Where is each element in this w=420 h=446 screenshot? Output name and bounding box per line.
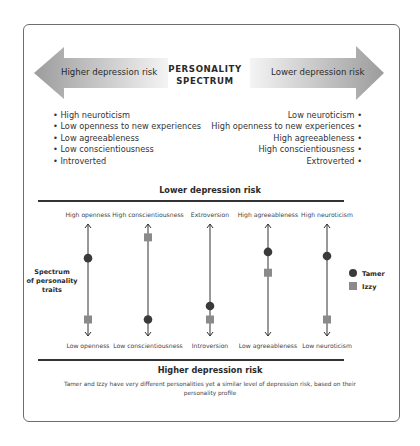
axis-bottom-label: Low openness bbox=[66, 342, 109, 350]
side-label-line: Spectrum bbox=[34, 268, 70, 276]
tamer-marker bbox=[206, 302, 215, 311]
tamer-marker bbox=[144, 315, 153, 324]
side-label-line: of personality bbox=[27, 277, 79, 285]
axis-bottom-label: Low conscientiousness bbox=[113, 342, 183, 349]
side-label-line: traits bbox=[42, 286, 62, 294]
tamer-marker bbox=[84, 254, 93, 263]
legend-tamer-icon bbox=[349, 269, 357, 277]
izzy-marker bbox=[264, 269, 272, 277]
axis-top-label: High neuroticism bbox=[301, 211, 353, 219]
trait-spectrum-chart: High opennessLow opennessHigh conscienti… bbox=[0, 0, 420, 446]
tamer-marker bbox=[323, 252, 332, 261]
axis-bottom-label: Low agreeableness bbox=[239, 342, 297, 350]
axis-top-label: High agreeableness bbox=[238, 211, 298, 219]
axis-top-label: Extroversion bbox=[191, 211, 229, 218]
axis-bottom-label: Introversion bbox=[192, 342, 229, 349]
legend-tamer-label: Tamer bbox=[362, 270, 385, 278]
izzy-marker bbox=[144, 233, 152, 241]
izzy-marker bbox=[206, 316, 214, 324]
axis-top-label: High conscientiousness bbox=[112, 211, 184, 219]
legend-izzy-label: Izzy bbox=[362, 283, 377, 291]
axis-top-label: High openness bbox=[65, 211, 110, 219]
axis-bottom-label: Low neuroticism bbox=[302, 342, 352, 349]
izzy-marker bbox=[323, 316, 331, 324]
izzy-marker bbox=[84, 316, 92, 324]
tamer-marker bbox=[264, 248, 273, 257]
legend-izzy-icon bbox=[349, 282, 357, 290]
